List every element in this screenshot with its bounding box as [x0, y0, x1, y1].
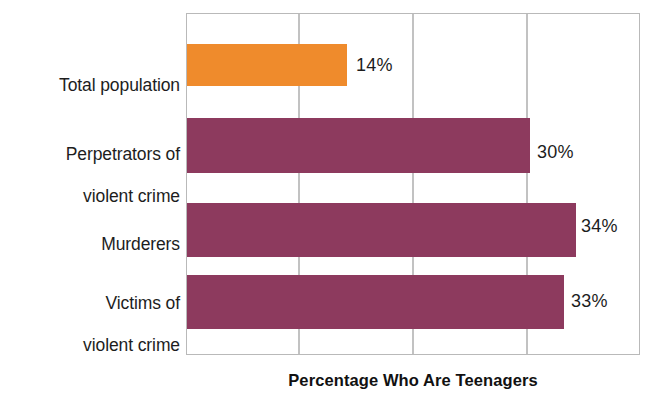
- bar-total-population: [187, 44, 347, 86]
- category-label-line: Perpetrators of: [0, 144, 180, 165]
- x-axis-title: Percentage Who Are Teenagers: [186, 371, 640, 390]
- bar-chart-figure: Total population Perpetrators of violent…: [0, 0, 662, 412]
- category-label-total-population: Total population: [0, 54, 180, 96]
- category-label-victims-of-violent-crime: Victims of violent crime: [0, 272, 180, 377]
- bar-perpetrators-of-violent-crime: [187, 118, 530, 173]
- category-label-line: Murderers: [101, 234, 180, 254]
- value-label-total-population: 14%: [356, 55, 393, 76]
- category-label-line: Victims of: [0, 293, 180, 314]
- category-label-line: Total population: [59, 75, 180, 95]
- category-label-line: violent crime: [0, 335, 180, 356]
- value-label-murderers: 34%: [581, 216, 618, 237]
- category-label-line: violent crime: [0, 186, 180, 207]
- value-label-perpetrators-of-violent-crime: 30%: [537, 142, 574, 163]
- bar-murderers: [187, 203, 576, 257]
- category-label-murderers: Murderers: [0, 213, 180, 255]
- bar-victims-of-violent-crime: [187, 275, 564, 329]
- value-label-victims-of-violent-crime: 33%: [571, 291, 608, 312]
